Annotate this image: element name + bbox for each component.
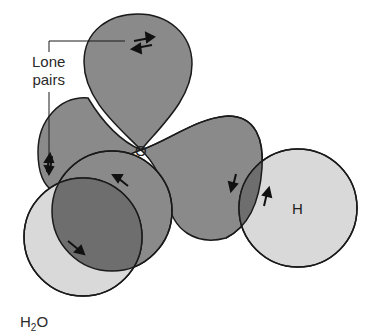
lone-pairs-label-line1: Lone bbox=[32, 53, 65, 71]
orbital-diagram: O H bbox=[0, 0, 379, 336]
oxygen-label: O bbox=[135, 142, 147, 159]
hydrogen-label: H bbox=[292, 200, 303, 217]
molecule-title: H2O bbox=[20, 313, 48, 336]
lone-pairs-label: Lone pairs bbox=[32, 53, 65, 89]
lone-pairs-label-line2: pairs bbox=[32, 71, 65, 89]
